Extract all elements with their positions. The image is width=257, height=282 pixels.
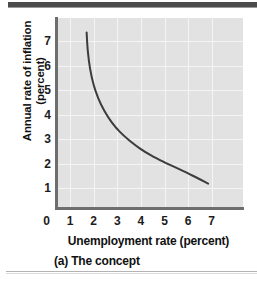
x-tick-label: 1 (62, 215, 78, 227)
figure-caption: (a) The concept (54, 254, 140, 268)
x-tick-label: 0 (39, 215, 55, 227)
y-tick-label: 1 (32, 182, 51, 194)
gridline-vertical (141, 18, 142, 208)
phillips-curve-figure: 1234567 01234567 Annual rate of inflatio… (0, 0, 257, 282)
x-tick-label: 3 (109, 215, 125, 227)
x-tick-label: 4 (133, 215, 149, 227)
x-tick-label: 2 (86, 215, 102, 227)
gridline-vertical (94, 18, 95, 208)
gridline-horizontal (58, 41, 243, 42)
plot-area (58, 18, 243, 208)
gridline-horizontal (58, 66, 243, 67)
x-axis-line (55, 207, 244, 210)
x-tick-labels: 01234567 (0, 215, 257, 231)
gridline-vertical (70, 18, 71, 208)
y-axis-title-line2: (percent) (34, 1, 47, 161)
gridline-vertical (212, 18, 213, 208)
gridline-vertical (165, 18, 166, 208)
gridline-horizontal (58, 164, 243, 165)
x-tick-label: 7 (204, 215, 220, 227)
bottom-rule-divider-2 (6, 273, 257, 274)
gridline-vertical (188, 18, 189, 208)
x-axis-title: Unemployment rate (percent) (46, 234, 251, 248)
y-axis-title: Annual rate of inflation (percent) (21, 1, 47, 161)
bottom-rule-divider (6, 271, 257, 272)
gridline-vertical (117, 18, 118, 208)
x-tick-label: 5 (157, 215, 173, 227)
gridline-horizontal (58, 139, 243, 140)
gridline-horizontal (58, 115, 243, 116)
y-axis-line (55, 17, 58, 210)
y-axis-title-line1: Annual rate of inflation (21, 1, 34, 161)
x-tick-label: 6 (180, 215, 196, 227)
gridline-horizontal (58, 188, 243, 189)
gridline-horizontal (58, 90, 243, 91)
